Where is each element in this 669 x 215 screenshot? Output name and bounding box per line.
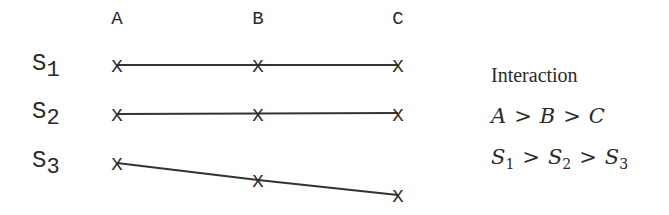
math-term: S — [605, 145, 619, 169]
math-operator: > — [522, 145, 540, 169]
x-marker: X — [252, 171, 264, 193]
legend-title: Interaction — [491, 64, 578, 87]
legend-line-series: S1>S2>S3 — [491, 145, 628, 172]
legend-line-categories: A>B>C — [491, 104, 605, 128]
math-term: B — [540, 104, 555, 128]
x-marker: X — [111, 105, 123, 127]
math-sub: 2 — [562, 156, 571, 172]
x-marker: X — [392, 56, 404, 78]
math-sub: 3 — [619, 156, 628, 172]
math-term: C — [589, 104, 605, 128]
x-marker: X — [252, 56, 264, 78]
math-term: A — [491, 104, 506, 128]
math-operator: > — [579, 145, 597, 169]
x-marker: X — [111, 56, 123, 78]
x-marker: X — [392, 105, 404, 127]
x-marker: X — [111, 154, 123, 176]
x-marker: X — [252, 105, 264, 127]
x-marker: X — [392, 186, 404, 208]
math-term: S — [548, 145, 562, 169]
legend: Interaction — [491, 64, 578, 87]
math-operator: > — [563, 104, 581, 128]
math-sub: 1 — [505, 156, 514, 172]
math-operator: > — [514, 104, 532, 128]
math-term: S — [491, 145, 505, 169]
